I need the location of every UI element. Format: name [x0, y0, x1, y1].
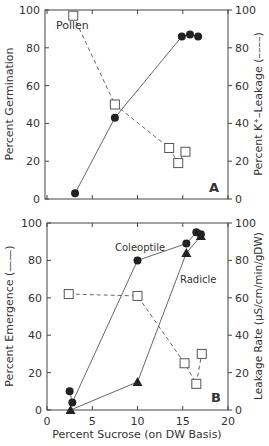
- data-point-square: [192, 379, 201, 388]
- svg-text:60: 60: [28, 292, 42, 305]
- svg-text:0: 0: [33, 193, 40, 206]
- data-point-square: [180, 359, 189, 368]
- svg-text:5: 5: [89, 415, 96, 428]
- svg-text:20: 20: [235, 367, 249, 380]
- panel-a-label: A: [209, 180, 219, 195]
- data-point-circle: [68, 399, 76, 407]
- svg-text:100: 100: [21, 217, 42, 230]
- data-point-circle: [111, 114, 119, 122]
- data-point-square: [64, 290, 73, 299]
- coleoptile-label: Coleoptile: [115, 242, 165, 253]
- panel-a: 020406080100 020406080100 Pollen A Perce…: [3, 4, 265, 206]
- svg-text:100: 100: [235, 217, 256, 230]
- panel-a-series: [69, 11, 202, 197]
- svg-text:60: 60: [26, 80, 40, 93]
- svg-text:15: 15: [176, 415, 190, 428]
- data-point-square: [110, 100, 119, 109]
- data-point-circle: [134, 256, 142, 264]
- data-point-triangle: [133, 377, 143, 386]
- data-point-square: [165, 143, 174, 152]
- svg-text:0: 0: [44, 415, 51, 428]
- svg-text:20: 20: [221, 415, 235, 428]
- svg-text:80: 80: [235, 42, 249, 55]
- svg-text:40: 40: [235, 329, 249, 342]
- panel-b-x-axis: 05101520: [44, 223, 236, 428]
- svg-text:80: 80: [26, 42, 40, 55]
- svg-text:40: 40: [28, 329, 42, 342]
- panel-b-series: [64, 228, 206, 414]
- svg-text:20: 20: [28, 367, 42, 380]
- svg-text:60: 60: [235, 292, 249, 305]
- svg-text:10: 10: [131, 415, 145, 428]
- panel-b-left-ylabel: Percent Emergence (——): [3, 245, 16, 386]
- data-point-circle: [66, 387, 74, 395]
- svg-text:0: 0: [35, 404, 42, 417]
- data-point-square: [174, 159, 183, 168]
- svg-text:80: 80: [235, 254, 249, 267]
- svg-text:40: 40: [235, 117, 249, 130]
- series-k-leakage: [69, 11, 190, 167]
- data-point-square: [197, 349, 206, 358]
- svg-text:0: 0: [235, 193, 242, 206]
- data-point-circle: [178, 32, 186, 40]
- figure: 020406080100 020406080100 Pollen A Perce…: [0, 0, 269, 446]
- pollen-annotation: Pollen: [56, 19, 89, 32]
- data-point-square: [181, 147, 190, 156]
- svg-text:40: 40: [26, 117, 40, 130]
- svg-text:20: 20: [26, 155, 40, 168]
- panel-b-right-ylabel: Leakage Rate (µS/cm/min/gDW): [252, 232, 264, 400]
- svg-text:0: 0: [235, 404, 242, 417]
- panel-a-left-ylabel: Percent Germination: [3, 47, 16, 160]
- svg-text:100: 100: [19, 4, 40, 17]
- svg-text:20: 20: [235, 155, 249, 168]
- data-point-circle: [186, 31, 194, 39]
- series-germination: [71, 31, 202, 198]
- x-axis-label: Percent Sucrose (on DW Basis): [52, 428, 221, 441]
- panel-b: 020406080100 020406080100 05101520 Coleo…: [3, 217, 264, 441]
- svg-text:80: 80: [28, 254, 42, 267]
- panel-b-label: B: [211, 390, 221, 405]
- data-point-circle: [194, 32, 202, 40]
- data-point-circle: [71, 189, 79, 197]
- data-point-circle: [182, 240, 190, 248]
- radicle-label: Radicle: [180, 274, 216, 285]
- panel-a-right-ylabel: Percent K⁺–Leakage (––––): [252, 32, 265, 176]
- svg-text:60: 60: [235, 80, 249, 93]
- data-point-square: [133, 291, 142, 300]
- svg-text:100: 100: [235, 4, 256, 17]
